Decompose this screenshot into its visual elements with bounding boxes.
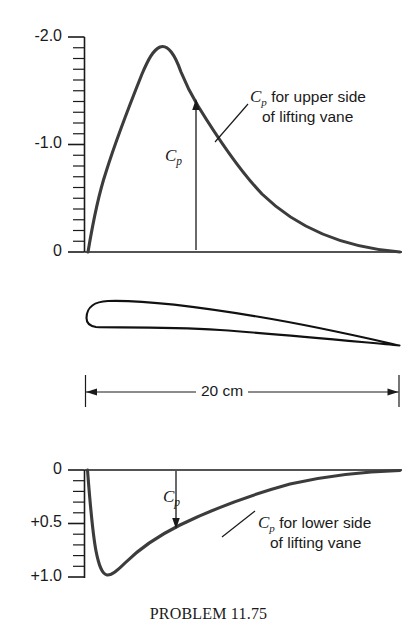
lower-cp-marker-label: Cp: [163, 487, 180, 508]
lower-axis-label-pos10: +1.0: [8, 567, 62, 585]
upper-annotation-line-2: of lifting vane: [262, 108, 353, 125]
cp-symbol-upper: Cp: [250, 87, 267, 106]
upper-axis-label-neg1: -1.0: [8, 134, 62, 152]
chord-dimension-label: 20 cm: [196, 382, 248, 400]
upper-axis-label-zero: 0: [8, 242, 62, 260]
lower-annotation-leader: [222, 511, 255, 537]
airfoil-outline: [87, 301, 400, 346]
upper-axis-label-neg2: -2.0: [8, 27, 62, 45]
cp-symbol-lower: Cp: [258, 513, 275, 532]
upper-chart-axes: [68, 37, 402, 252]
upper-annotation-leader: [215, 104, 248, 142]
upper-cp-marker-label: Cp: [165, 146, 182, 167]
lower-annotation-line-2: of lifting vane: [270, 534, 361, 551]
airfoil-section: [87, 301, 400, 346]
figure-caption: PROBLEM 11.75: [0, 605, 417, 623]
upper-curve-annotation: Cp for upper side of lifting vane: [250, 88, 366, 126]
upper-surface-curve: [88, 47, 400, 252]
lower-annotation-line-1: Cp for lower side: [258, 514, 371, 531]
problem-figure: -2.0 -1.0 0 Cp Cp for upper side of lift…: [0, 0, 417, 644]
upper-cp-arrow: [192, 99, 200, 250]
lower-axis-label-pos05: +0.5: [8, 513, 62, 531]
upper-annotation-line-1: Cp for upper side: [250, 88, 366, 105]
lower-axis-label-zero: 0: [8, 460, 62, 478]
lower-curve-annotation: Cp for lower side of lifting vane: [258, 514, 371, 552]
